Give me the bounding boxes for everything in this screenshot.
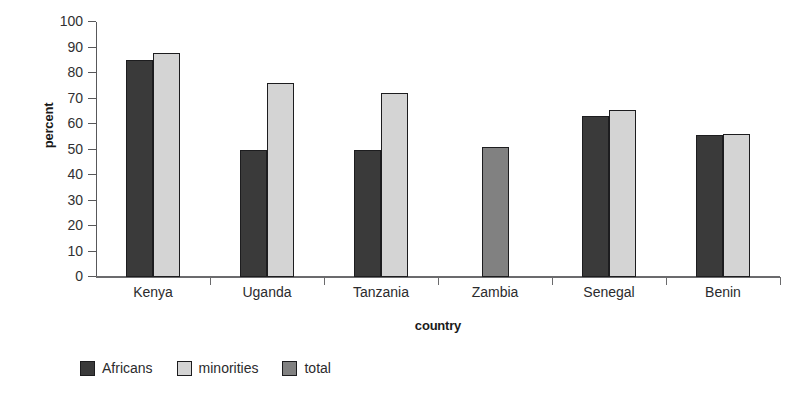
y-axis-tick: 50 xyxy=(88,149,96,150)
legend-label: minorities xyxy=(199,360,259,376)
x-axis-category-label: Senegal xyxy=(583,284,634,300)
x-axis-tick xyxy=(780,277,781,285)
x-axis-category-label: Tanzania xyxy=(353,284,409,300)
bar-kenya-minorities xyxy=(153,53,180,277)
y-axis-tick: 30 xyxy=(88,200,96,201)
y-axis-tick: 0 xyxy=(88,276,96,277)
x-axis-category-label: Kenya xyxy=(133,284,173,300)
legend-swatch-total xyxy=(282,361,297,376)
y-axis-tick-label: 70 xyxy=(67,88,83,108)
y-axis-tick: 80 xyxy=(88,72,96,73)
y-axis-tick: 100 xyxy=(88,21,96,22)
legend-entry: minorities xyxy=(177,360,259,376)
x-axis-tick xyxy=(210,277,211,285)
y-axis-tick: 90 xyxy=(88,47,96,48)
x-axis-category-label: Benin xyxy=(705,284,741,300)
y-axis-tick-label: 60 xyxy=(67,113,83,133)
legend-label: Africans xyxy=(102,360,153,376)
y-axis-tick-label: 100 xyxy=(60,11,83,31)
bar-senegal-africans xyxy=(582,116,609,277)
y-axis-tick: 40 xyxy=(88,174,96,175)
y-axis-tick-label: 40 xyxy=(67,164,83,184)
bar-group-kenya: Kenya xyxy=(96,22,210,277)
y-axis-tick-label: 0 xyxy=(75,266,83,286)
bar-senegal-minorities xyxy=(609,110,636,277)
bar-benin-minorities xyxy=(723,134,750,277)
bars-row xyxy=(96,22,210,277)
bars-row xyxy=(438,22,552,277)
bars-row xyxy=(324,22,438,277)
bar-group-uganda: Uganda xyxy=(210,22,324,277)
legend-entry: total xyxy=(282,360,330,376)
y-axis-tick-label: 80 xyxy=(67,62,83,82)
bar-group-senegal: Senegal xyxy=(552,22,666,277)
bar-uganda-minorities xyxy=(267,83,294,277)
bars-row xyxy=(210,22,324,277)
y-axis-tick-label: 90 xyxy=(67,37,83,57)
x-axis-tick xyxy=(324,277,325,285)
legend: Africansminoritiestotal xyxy=(80,360,344,376)
y-axis-tick-label: 20 xyxy=(67,215,83,235)
x-axis-category-label: Zambia xyxy=(472,284,519,300)
y-axis-tick: 10 xyxy=(88,251,96,252)
legend-label: total xyxy=(304,360,330,376)
y-axis-tick: 60 xyxy=(88,123,96,124)
bar-tanzania-africans xyxy=(354,150,381,278)
legend-swatch-africans xyxy=(80,361,95,376)
bar-group-tanzania: Tanzania xyxy=(324,22,438,277)
bar-chart-figure: percent 0102030405060708090100 KenyaUgan… xyxy=(0,0,806,406)
y-axis-tick-label: 10 xyxy=(67,241,83,261)
y-axis-title: percent xyxy=(41,86,56,166)
bar-kenya-africans xyxy=(126,60,153,277)
x-axis-tick xyxy=(666,277,667,285)
x-axis-tick xyxy=(438,277,439,285)
bar-uganda-africans xyxy=(240,150,267,278)
y-axis-tick: 20 xyxy=(88,225,96,226)
bar-zambia-total xyxy=(482,147,509,277)
legend-entry: Africans xyxy=(80,360,153,376)
bar-group-zambia: Zambia xyxy=(438,22,552,277)
legend-swatch-minorities xyxy=(177,361,192,376)
x-axis-tick xyxy=(552,277,553,285)
bars-row xyxy=(666,22,780,277)
y-axis-tick-label: 30 xyxy=(67,190,83,210)
x-axis-title: country xyxy=(96,318,780,333)
bars-row xyxy=(552,22,666,277)
y-axis-tick-label: 50 xyxy=(67,139,83,159)
y-axis-tick: 70 xyxy=(88,98,96,99)
bar-group-benin: Benin xyxy=(666,22,780,277)
bar-tanzania-minorities xyxy=(381,93,408,277)
bar-benin-africans xyxy=(696,135,723,277)
x-axis-category-label: Uganda xyxy=(242,284,291,300)
plot-area: 0102030405060708090100 KenyaUgandaTanzan… xyxy=(96,22,780,277)
